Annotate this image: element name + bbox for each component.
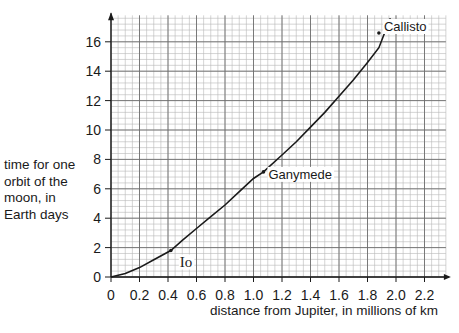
- x-tick-label: 1.8: [358, 287, 378, 303]
- data-point-marker: [377, 31, 381, 35]
- annotation-callisto: Callisto: [384, 19, 427, 34]
- y-tick-label: 14: [85, 63, 101, 79]
- x-tick-label: 1.2: [272, 287, 292, 303]
- x-tick-label: 0.8: [215, 287, 235, 303]
- y-tick-label: 16: [85, 34, 101, 50]
- y-axis-label-line: time for one: [4, 157, 104, 174]
- x-tick-label: 2.2: [415, 287, 435, 303]
- x-tick-label: 2.0: [386, 287, 406, 303]
- y-axis-label-line: Earth days: [4, 207, 104, 224]
- data-point-marker: [169, 249, 173, 253]
- y-axis-label: time for one orbit of the moon, in Earth…: [4, 157, 104, 223]
- tick-labels: 024681012141600.20.40.60.81.01.21.41.61.…: [85, 34, 434, 303]
- data-point-marker: [262, 170, 266, 174]
- annotation-ganymede: Ganymede: [268, 167, 332, 182]
- x-tick-label: 1.4: [301, 287, 321, 303]
- x-axis-label: distance from Jupiter, in millions of km: [210, 303, 438, 318]
- x-tick-label: 1.6: [329, 287, 349, 303]
- y-tick-label: 10: [85, 122, 101, 138]
- x-tick-label: 0.2: [130, 287, 150, 303]
- y-axis-label-line: moon, in: [4, 190, 104, 207]
- y-axis-label-line: orbit of the: [4, 174, 104, 191]
- annotation-io: Io: [180, 254, 193, 270]
- x-tick-label: 0.6: [187, 287, 207, 303]
- y-tick-label: 12: [85, 93, 101, 109]
- axes: [108, 12, 451, 280]
- y-tick-label: 2: [93, 240, 101, 256]
- x-tick-label: 0: [107, 287, 115, 303]
- x-tick-label: 1.0: [244, 287, 264, 303]
- x-tick-label: 0.4: [158, 287, 178, 303]
- grid-major: [111, 15, 446, 277]
- annotations: IoGanymedeCallisto: [169, 19, 428, 270]
- y-tick-label: 0: [93, 269, 101, 285]
